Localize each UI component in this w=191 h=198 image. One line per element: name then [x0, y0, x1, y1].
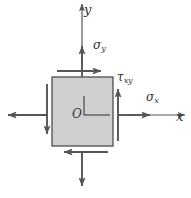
sigma-y-label: σy	[93, 39, 106, 52]
sigma-x-label: σx	[146, 91, 159, 104]
sigma-y-symbol: σ	[93, 38, 101, 52]
stress-element-figure: y x σy σx τxy O	[0, 0, 191, 198]
tau-xy-subscript: xy	[124, 75, 133, 85]
tau-xy-symbol: τ	[117, 70, 124, 84]
sigma-y-subscript: y	[101, 43, 105, 53]
origin-label: O	[72, 108, 82, 120]
axis-x-label: x	[176, 110, 183, 123]
sigma-x-symbol: σ	[146, 90, 154, 104]
axis-y-label: y	[84, 3, 91, 16]
stress-element-square	[52, 77, 113, 146]
sigma-x-subscript: x	[154, 95, 158, 105]
tau-xy-label: τxy	[117, 71, 133, 84]
stress-diagram-canvas	[0, 0, 191, 198]
